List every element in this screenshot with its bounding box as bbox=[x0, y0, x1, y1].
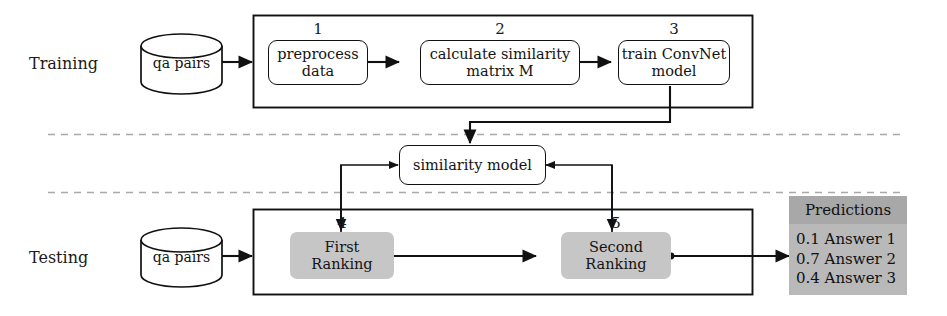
node-train-convnet-model-line2: model bbox=[622, 63, 726, 79]
node-similarity-model-label: similarity model bbox=[413, 157, 532, 173]
phase-label-training: Training bbox=[29, 54, 98, 73]
node-first-ranking-line2: Ranking bbox=[311, 256, 372, 272]
diagram-canvas: Training Testing qa pairs qa pairs 1 2 3… bbox=[0, 0, 947, 316]
training-datastore-label: qa pairs bbox=[141, 55, 222, 71]
predictions-header: Predictions bbox=[789, 196, 907, 224]
node-similarity-model[interactable]: similarity model bbox=[399, 145, 546, 185]
prediction-row-3: 0.4 Answer 3 bbox=[796, 269, 907, 289]
step-number-3: 3 bbox=[618, 20, 730, 38]
node-preprocess-data-line1: preprocess bbox=[277, 46, 358, 62]
step-number-2: 2 bbox=[420, 20, 580, 38]
testing-datastore-label: qa pairs bbox=[141, 249, 222, 265]
step-number-4: 4 bbox=[290, 214, 394, 232]
node-train-convnet-model[interactable]: train ConvNet model bbox=[618, 40, 730, 85]
node-preprocess-data[interactable]: preprocess data bbox=[268, 40, 368, 85]
node-first-ranking-line1: First bbox=[311, 239, 372, 255]
node-second-ranking[interactable]: Second Ranking bbox=[561, 232, 671, 279]
step-number-1: 1 bbox=[268, 20, 368, 38]
node-calculate-similarity-matrix-line2: matrix M bbox=[430, 63, 571, 79]
phase-label-testing: Testing bbox=[29, 248, 88, 267]
node-preprocess-data-line2: data bbox=[277, 63, 358, 79]
prediction-row-1: 0.1 Answer 1 bbox=[796, 230, 907, 250]
node-calculate-similarity-matrix[interactable]: calculate similarity matrix M bbox=[420, 40, 580, 85]
step-number-5: 5 bbox=[561, 214, 671, 232]
node-second-ranking-line1: Second bbox=[585, 239, 646, 255]
node-train-convnet-model-line1: train ConvNet bbox=[622, 46, 726, 62]
prediction-row-2: 0.7 Answer 2 bbox=[796, 250, 907, 270]
node-first-ranking[interactable]: First Ranking bbox=[290, 232, 394, 279]
node-second-ranking-line2: Ranking bbox=[585, 256, 646, 272]
node-calculate-similarity-matrix-line1: calculate similarity bbox=[430, 46, 571, 62]
predictions-rows: 0.1 Answer 1 0.7 Answer 2 0.4 Answer 3 bbox=[789, 230, 907, 289]
